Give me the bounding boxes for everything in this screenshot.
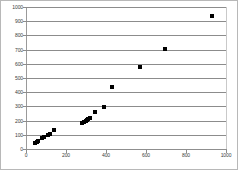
gridline-horizontal xyxy=(26,135,226,136)
y-tick-label: 300 xyxy=(15,104,23,109)
data-point-marker xyxy=(138,65,142,69)
plot-border-right xyxy=(226,7,227,150)
data-point-marker xyxy=(52,128,56,132)
x-tick-label: 0 xyxy=(25,153,28,158)
y-tick-label: 0 xyxy=(20,147,23,152)
y-tick-mark xyxy=(23,64,26,65)
y-tick-label: 900 xyxy=(15,19,23,24)
y-tick-mark xyxy=(23,7,26,8)
y-tick-label: 500 xyxy=(15,76,23,81)
figure-frame: 01002003004005006007008009001000 0200400… xyxy=(0,0,238,170)
y-tick-label: 1000 xyxy=(12,5,23,10)
y-tick-label: 100 xyxy=(15,132,23,137)
x-tick-label: 1000 xyxy=(221,153,232,158)
y-tick-mark xyxy=(23,35,26,36)
y-tick-label: 400 xyxy=(15,90,23,95)
chart-canvas: 01002003004005006007008009001000 0200400… xyxy=(1,1,238,170)
gridline-horizontal xyxy=(26,7,226,8)
y-tick-mark xyxy=(23,78,26,79)
y-tick-mark xyxy=(23,50,26,51)
data-point-marker xyxy=(163,47,167,51)
chart-screenshot: 01002003004005006007008009001000 0200400… xyxy=(0,0,238,170)
data-point-marker xyxy=(210,14,214,18)
gridline-horizontal xyxy=(26,121,226,122)
y-tick-mark xyxy=(23,135,26,136)
x-tick-label: 400 xyxy=(102,153,110,158)
y-tick-label: 800 xyxy=(15,33,23,38)
y-tick-label: 600 xyxy=(15,61,23,66)
gridline-horizontal xyxy=(26,78,226,79)
gridline-horizontal xyxy=(26,92,226,93)
gridline-horizontal xyxy=(26,106,226,107)
gridline-horizontal xyxy=(26,64,226,65)
gridline-horizontal xyxy=(26,21,226,22)
gridline-horizontal xyxy=(26,35,226,36)
y-tick-mark xyxy=(23,21,26,22)
data-point-marker xyxy=(48,132,52,136)
y-tick-mark xyxy=(23,106,26,107)
y-tick-mark xyxy=(23,92,26,93)
x-axis-line xyxy=(26,149,227,150)
data-point-marker xyxy=(110,85,114,89)
data-point-marker xyxy=(88,116,92,120)
data-point-marker xyxy=(102,105,106,109)
x-tick-label: 200 xyxy=(62,153,70,158)
data-point-marker xyxy=(93,110,97,114)
gridline-horizontal xyxy=(26,50,226,51)
y-tick-label: 700 xyxy=(15,47,23,52)
x-tick-label: 800 xyxy=(182,153,190,158)
x-tick-label: 600 xyxy=(142,153,150,158)
y-tick-mark xyxy=(23,121,26,122)
y-tick-label: 200 xyxy=(15,118,23,123)
